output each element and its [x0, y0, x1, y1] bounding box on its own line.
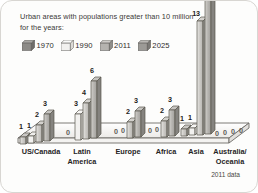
- category-label-line: Australia/: [213, 147, 246, 156]
- bar-value: 0: [63, 128, 73, 137]
- bar-value: 0: [152, 125, 162, 134]
- category-label-line: America: [68, 157, 97, 166]
- source-note: 2011 data: [211, 171, 240, 178]
- category-label-line: Europe: [115, 147, 140, 156]
- bar-value: 3: [131, 96, 141, 105]
- bar-value: 1: [24, 121, 34, 130]
- bar-value: 2: [123, 107, 133, 116]
- bar-value: 2: [32, 110, 42, 119]
- bar-value: 0: [118, 126, 128, 135]
- bar-value: 4: [79, 88, 89, 97]
- bar-group-latin-america: [75, 77, 101, 140]
- category-label-line: Asia: [188, 147, 203, 156]
- bar-value: 13: [189, 9, 203, 18]
- category-label-australia-oceania: Australia/ Oceania: [205, 147, 255, 166]
- bar-2025: [44, 110, 54, 141]
- category-label-latin-america: Latin America: [58, 147, 106, 166]
- chart-card: Urban areas with populations greater tha…: [0, 0, 258, 193]
- category-label-line: US/Canada: [22, 147, 61, 156]
- bar-value: 3: [40, 99, 50, 108]
- category-label-line: Latin: [73, 147, 90, 156]
- bar-value: 3: [165, 95, 175, 104]
- bar-value: 1: [185, 113, 195, 122]
- category-label-line: Africa: [156, 147, 177, 156]
- category-label-line: Oceania: [216, 157, 244, 166]
- bar-value: 3: [71, 99, 81, 108]
- bar-2025: [91, 77, 101, 138]
- bar-2025: [205, 1, 215, 134]
- category-label-europe: Europe: [107, 147, 149, 157]
- bar-value: 6: [87, 66, 97, 75]
- bar-2025: [135, 107, 145, 137]
- bar-value: 2: [157, 106, 167, 115]
- bar-value: 0: [236, 126, 246, 135]
